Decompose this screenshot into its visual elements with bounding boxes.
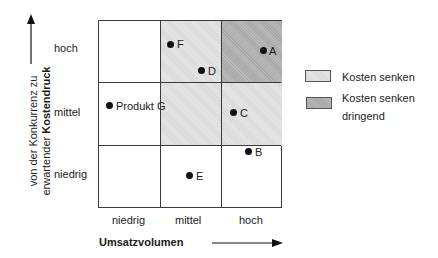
- cell-mittel-mittel: [160, 83, 222, 146]
- legend-label-kosten-senken-dringend: Kosten senken dringend: [342, 89, 415, 125]
- x-tick-mittel: mittel: [175, 214, 201, 226]
- y-axis-title-line1: von der Konkurrenz zu: [27, 1, 40, 258]
- y-tick-mittel: mittel: [54, 106, 80, 118]
- legend-swatch-kosten-senken: [305, 70, 331, 82]
- x-axis-title: Umsatzvolumen: [99, 236, 183, 248]
- y-axis-title-line2: erwartender Kostendruck: [40, 1, 53, 258]
- point-b-marker: [245, 148, 252, 155]
- legend-swatch-kosten-senken-dringend: [306, 97, 332, 109]
- portfolio-matrix: [98, 20, 282, 208]
- y-tick-hoch: hoch: [54, 42, 78, 54]
- point-c-marker: [230, 109, 237, 116]
- point-d-marker: [198, 67, 205, 74]
- point-d-label: D: [208, 66, 216, 77]
- x-tick-hoch: hoch: [239, 214, 263, 226]
- point-f-label: F: [177, 39, 184, 50]
- point-g-label: Produkt G: [116, 101, 166, 112]
- point-g-marker: [106, 102, 113, 109]
- point-a-label: A: [269, 46, 276, 57]
- point-f-marker: [167, 41, 174, 48]
- point-c-label: C: [240, 108, 248, 119]
- point-a-marker: [260, 47, 267, 54]
- x-axis-arrow-icon: [212, 238, 284, 248]
- grid-line: [160, 21, 161, 207]
- point-b-label: B: [255, 147, 262, 158]
- grid-line: [99, 145, 281, 146]
- y-axis-title: von der Konkurrenz zu erwartender Kosten…: [27, 1, 53, 258]
- legend-label-kosten-senken: Kosten senken: [342, 71, 415, 83]
- point-e-marker: [186, 172, 193, 179]
- grid-line: [221, 21, 222, 207]
- x-tick-niedrig: niedrig: [112, 214, 145, 226]
- y-axis-title-bold: Kostendruck: [40, 67, 52, 134]
- y-tick-niedrig: niedrig: [54, 168, 87, 180]
- point-e-label: E: [196, 171, 203, 182]
- grid-line: [99, 82, 281, 83]
